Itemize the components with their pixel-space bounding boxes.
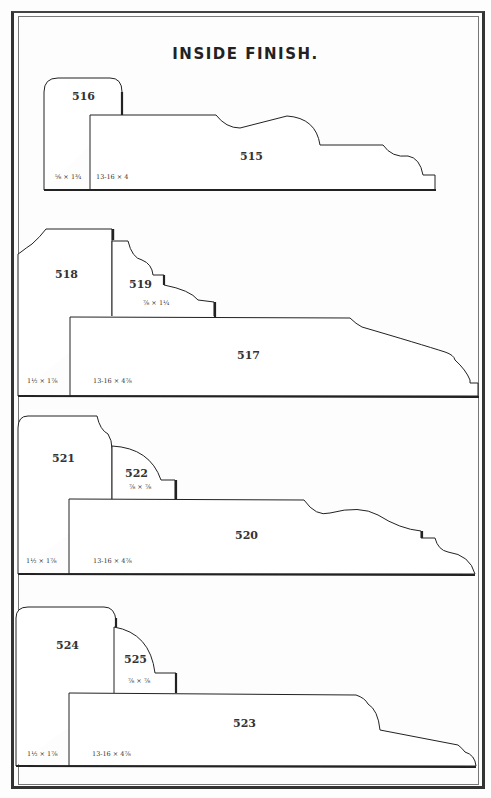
molding-size-520: 13-16 × 4⅞ (93, 557, 132, 565)
molding-size-519: ⅞ × 1¼ (143, 299, 169, 307)
molding-number-518: 518 (55, 268, 78, 281)
molding-number-515: 515 (240, 150, 263, 163)
molding-profiles-drawing (0, 0, 491, 798)
molding-size-522: ⅞ × ⅞ (129, 483, 151, 491)
molding-number-524: 524 (56, 639, 79, 652)
catalog-page: INSIDE FINISH. (0, 0, 491, 798)
molding-size-524: 1½ × 1⅞ (27, 750, 57, 758)
molding-size-515: 13-16 × 4 (96, 173, 128, 181)
molding-number-523: 523 (233, 717, 256, 730)
molding-number-522: 522 (125, 467, 148, 480)
molding-size-523: 13-16 × 4⅞ (92, 750, 131, 758)
molding-size-525: ⅞ × ⅞ (128, 677, 150, 685)
molding-number-517: 517 (237, 349, 260, 362)
molding-number-516: 516 (72, 90, 95, 103)
molding-size-521: 1½ × 1⅞ (26, 557, 56, 565)
molding-size-517: 13-16 × 4⅞ (93, 377, 132, 385)
molding-number-520: 520 (235, 529, 258, 542)
molding-number-519: 519 (129, 278, 152, 291)
molding-size-516: ⅝ × 1¾ (55, 173, 81, 181)
molding-size-518: 1½ × 1⅞ (27, 377, 57, 385)
molding-number-525: 525 (124, 653, 147, 666)
molding-number-521: 521 (52, 452, 75, 465)
